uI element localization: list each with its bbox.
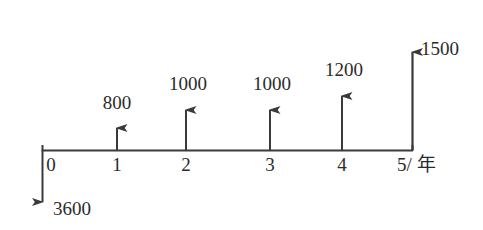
axis-unit-label: 5/ 年 bbox=[397, 155, 436, 174]
outflow-value-period-0: 3600 bbox=[53, 199, 91, 218]
diagram-canvas bbox=[0, 0, 483, 230]
inflow-value-period-4: 1200 bbox=[325, 60, 363, 79]
inflow-value-period-5: 1500 bbox=[421, 39, 459, 58]
inflow-value-period-3: 1000 bbox=[253, 74, 291, 93]
inflow-value-period-2: 1000 bbox=[169, 74, 207, 93]
inflow-value-period-1: 800 bbox=[103, 93, 132, 112]
axis-tick-label-4: 4 bbox=[337, 155, 347, 174]
axis-tick-label-3: 3 bbox=[265, 155, 275, 174]
cash-flow-diagram: 800 1000 1000 1200 1500 3600 0 1 2 3 4 5… bbox=[0, 0, 483, 230]
axis-tick-label-0: 0 bbox=[46, 155, 56, 174]
axis-tick-label-2: 2 bbox=[181, 155, 191, 174]
axis-tick-label-1: 1 bbox=[112, 155, 122, 174]
